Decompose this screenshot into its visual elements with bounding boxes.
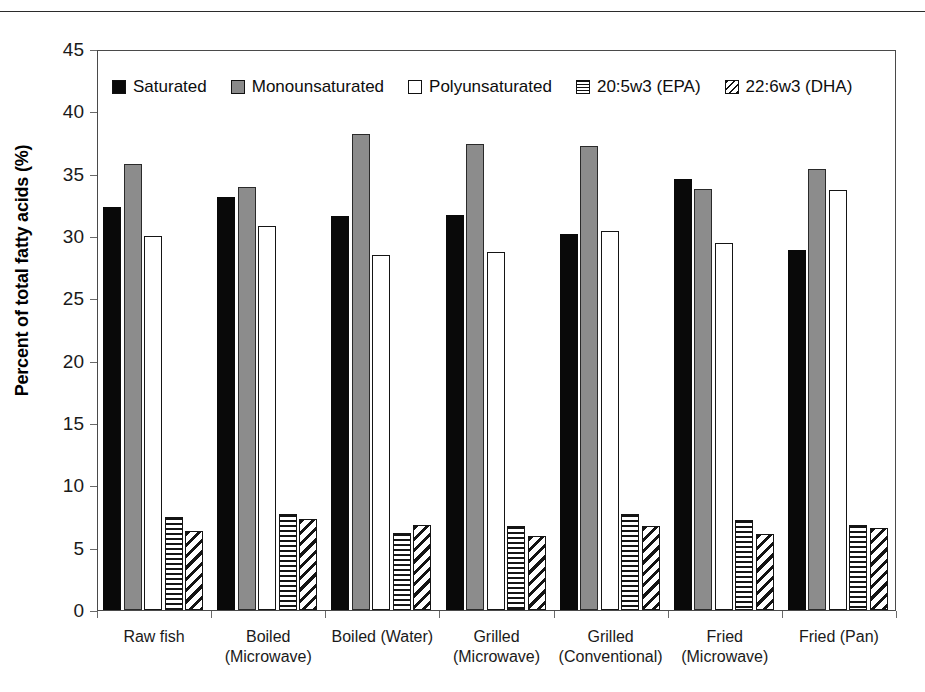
bar-saturated <box>788 250 806 610</box>
x-category-label: Fried (Pan) <box>782 627 896 647</box>
x-tick-mark <box>211 611 212 618</box>
x-category-label: Boiled (Water) <box>325 627 439 647</box>
bar-22-6w3-dha <box>642 526 660 610</box>
bar-monounsaturated <box>124 164 142 610</box>
y-tick-mark <box>90 112 97 113</box>
bar-22-6w3-dha <box>756 534 774 610</box>
chart-legend: SaturatedMonounsaturatedPolyunsaturated2… <box>112 77 852 97</box>
legend-item: 20:5w3 (EPA) <box>576 77 701 97</box>
y-tick-label: 35 <box>40 165 84 184</box>
legend-item: Polyunsaturated <box>408 77 552 97</box>
x-category-label: Fried(Microwave) <box>668 627 782 668</box>
bar-polyunsaturated <box>715 243 733 610</box>
x-tick-mark <box>782 611 783 618</box>
y-tick-label: 40 <box>40 102 84 121</box>
x-category-label-line: Boiled (Water) <box>325 627 439 647</box>
y-tick-label: 45 <box>40 40 84 59</box>
y-tick-label: 0 <box>40 601 84 620</box>
y-tick-label: 15 <box>40 414 84 433</box>
y-tick-label: 30 <box>40 227 84 246</box>
bar-monounsaturated <box>466 144 484 610</box>
y-tick-mark <box>90 549 97 550</box>
bar-monounsaturated <box>352 134 370 610</box>
bar-20-5w3-epa <box>165 517 183 611</box>
bar-20-5w3-epa <box>849 525 867 610</box>
x-tick-mark <box>325 611 326 618</box>
x-tick-mark <box>97 611 98 618</box>
y-tick-label: 25 <box>40 289 84 308</box>
x-category-label-line: Fried (Pan) <box>782 627 896 647</box>
page-top-rule <box>0 11 925 12</box>
y-tick-mark <box>90 175 97 176</box>
x-tick-mark <box>668 611 669 618</box>
x-tick-mark <box>439 611 440 618</box>
bar-22-6w3-dha <box>870 528 888 610</box>
x-category-label-line: (Microwave) <box>211 647 325 667</box>
legend-swatch-monounsaturated-icon <box>231 80 245 94</box>
bar-20-5w3-epa <box>621 514 639 610</box>
legend-item: Saturated <box>112 77 207 97</box>
y-tick-mark <box>90 611 97 612</box>
bar-polyunsaturated <box>487 252 505 610</box>
legend-label: 22:6w3 (DHA) <box>746 77 853 97</box>
x-category-label: Boiled(Microwave) <box>211 627 325 668</box>
y-tick-mark <box>90 486 97 487</box>
plot-inner: SaturatedMonounsaturatedPolyunsaturated2… <box>98 51 895 610</box>
plot-area: SaturatedMonounsaturatedPolyunsaturated2… <box>97 50 896 611</box>
bar-20-5w3-epa <box>393 533 411 610</box>
bar-20-5w3-epa <box>279 514 297 610</box>
x-category-label-line: Boiled <box>211 627 325 647</box>
bar-saturated <box>446 215 464 610</box>
bar-polyunsaturated <box>372 255 390 610</box>
legend-swatch-saturated-icon <box>112 80 126 94</box>
x-category-label: Grilled(Microwave) <box>439 627 553 668</box>
legend-swatch-dha-icon <box>725 80 739 94</box>
y-tick-mark <box>90 237 97 238</box>
bar-polyunsaturated <box>258 226 276 610</box>
x-category-label-line: Fried <box>668 627 782 647</box>
legend-swatch-polyunsaturated-icon <box>408 80 422 94</box>
y-tick-mark <box>90 362 97 363</box>
x-category-label-line: (Microwave) <box>439 647 553 667</box>
bar-monounsaturated <box>694 189 712 610</box>
bar-22-6w3-dha <box>185 531 203 610</box>
bar-polyunsaturated <box>601 231 619 610</box>
y-tick-label: 10 <box>40 476 84 495</box>
legend-label: Polyunsaturated <box>429 77 552 97</box>
bar-saturated <box>103 207 121 610</box>
x-category-label: Raw fish <box>97 627 211 647</box>
legend-label: Saturated <box>133 77 207 97</box>
bar-20-5w3-epa <box>735 520 753 610</box>
bar-monounsaturated <box>238 187 256 610</box>
bar-22-6w3-dha <box>413 525 431 610</box>
y-tick-mark <box>90 299 97 300</box>
chart-page: Percent of total fatty acids (%) 0510152… <box>0 0 925 692</box>
legend-item: Monounsaturated <box>231 77 384 97</box>
x-tick-mark <box>554 611 555 618</box>
legend-label: Monounsaturated <box>252 77 384 97</box>
x-tick-mark <box>896 611 897 618</box>
x-category-label: Grilled(Conventional) <box>554 627 668 668</box>
bar-saturated <box>217 197 235 610</box>
y-tick-mark <box>90 50 97 51</box>
x-category-label-line: (Conventional) <box>554 647 668 667</box>
x-category-label-line: Grilled <box>439 627 553 647</box>
bar-polyunsaturated <box>829 190 847 610</box>
legend-swatch-epa-icon <box>576 80 590 94</box>
bar-monounsaturated <box>580 146 598 610</box>
y-tick-mark <box>90 424 97 425</box>
x-category-label-line: Grilled <box>554 627 668 647</box>
bar-monounsaturated <box>808 169 826 610</box>
bar-polyunsaturated <box>144 236 162 610</box>
x-category-label-line: Raw fish <box>97 627 211 647</box>
y-tick-label: 5 <box>40 539 84 558</box>
bar-saturated <box>560 234 578 610</box>
bar-22-6w3-dha <box>299 519 317 610</box>
y-tick-label: 20 <box>40 352 84 371</box>
legend-item: 22:6w3 (DHA) <box>725 77 853 97</box>
legend-label: 20:5w3 (EPA) <box>597 77 701 97</box>
bar-20-5w3-epa <box>507 526 525 610</box>
x-category-label-line: (Microwave) <box>668 647 782 667</box>
y-axis-title: Percent of total fatty acids (%) <box>12 56 33 486</box>
bar-saturated <box>331 216 349 610</box>
